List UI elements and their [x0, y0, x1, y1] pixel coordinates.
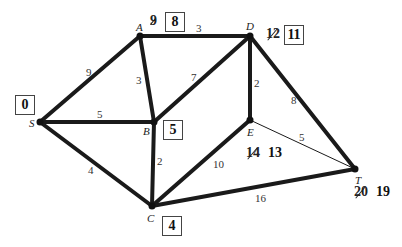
edge-E-T [250, 120, 355, 169]
weight-E-T: 5 [299, 132, 305, 143]
weight-A-D: 3 [196, 23, 202, 34]
weight-B-D: 7 [191, 72, 197, 83]
edge-D-T [250, 36, 355, 169]
node-D [247, 33, 254, 40]
label-box-C: 4 [162, 216, 182, 236]
edge-B-D [154, 36, 250, 122]
node-E [247, 117, 254, 124]
node-name-C: C [147, 213, 154, 224]
weight-D-E: 2 [254, 78, 260, 89]
node-C [149, 203, 156, 210]
node-name-B: B [143, 126, 150, 137]
node-name-D: D [246, 21, 254, 32]
weight-A-B: 3 [136, 75, 142, 86]
label-E: 13 [268, 146, 282, 160]
old-label-T: 20 [354, 185, 368, 199]
weight-S-B: 5 [97, 109, 103, 120]
node-A [137, 33, 144, 40]
label-box-S: 0 [15, 95, 35, 115]
node-B [151, 119, 158, 126]
node-T [352, 166, 359, 173]
label-box-A: 8 [165, 12, 185, 32]
edge-B-C [152, 122, 154, 206]
node-name-E: E [247, 127, 254, 138]
label-box-D: 11 [284, 25, 304, 45]
old-label-A: 9 [150, 14, 157, 28]
weight-D-T: 8 [291, 95, 297, 106]
edge-C-T [152, 169, 355, 206]
label-T: 19 [376, 185, 390, 199]
label-box-B: 5 [163, 120, 183, 140]
weight-S-C: 4 [88, 165, 94, 176]
old-label-D: 12 [266, 27, 280, 41]
node-name-S: S [29, 118, 35, 129]
edge-A-B [140, 36, 154, 122]
node-S [37, 119, 44, 126]
weight-S-A: 9 [86, 67, 92, 78]
weight-C-E: 10 [213, 159, 224, 170]
weight-B-C: 2 [157, 156, 163, 167]
old-label-E: 14 [246, 146, 260, 160]
weight-C-T: 16 [255, 193, 266, 204]
graph-edges [0, 0, 402, 247]
edge-S-A [40, 36, 140, 122]
node-name-A: A [136, 22, 143, 33]
edge-S-C [40, 122, 152, 206]
